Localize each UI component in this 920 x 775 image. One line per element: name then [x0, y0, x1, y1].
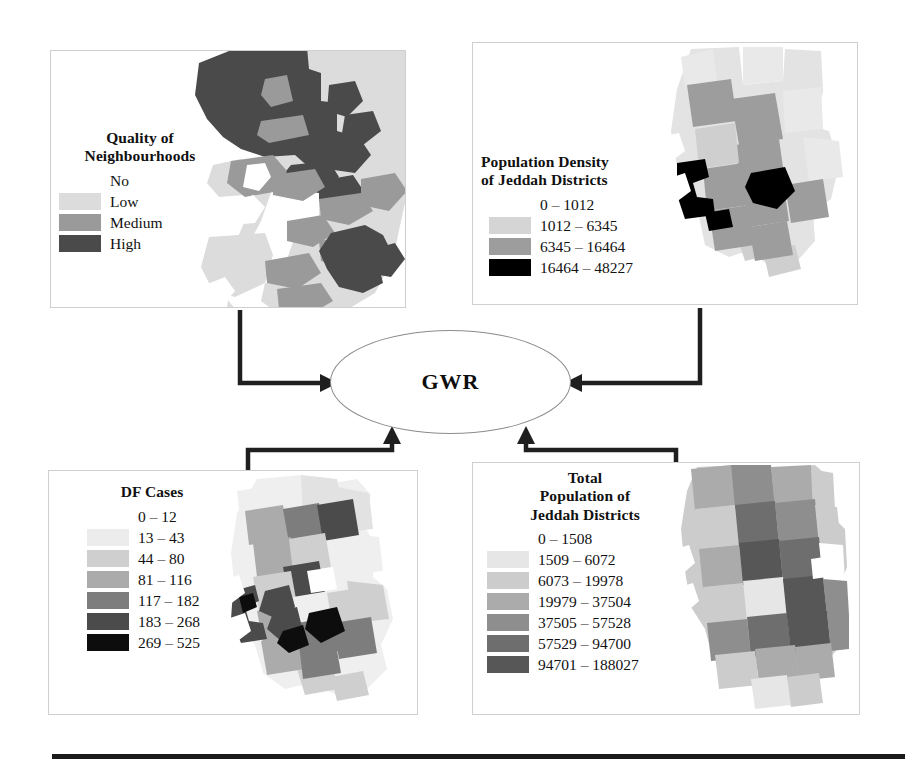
gwr-node-label: GWR	[330, 369, 571, 395]
figure-canvas: Quality of Neighbourhoods No Low Medium …	[0, 0, 920, 775]
gwr-node: GWR	[330, 330, 571, 434]
arrow-path-quality-to-gwr	[240, 310, 322, 383]
arrow-path-dfcases-to-gwr	[248, 440, 392, 470]
bottom-horizontal-rule	[52, 754, 905, 759]
arrow-path-totalpop-to-gwr	[526, 440, 676, 462]
arrow-path-density-to-gwr	[580, 308, 700, 383]
